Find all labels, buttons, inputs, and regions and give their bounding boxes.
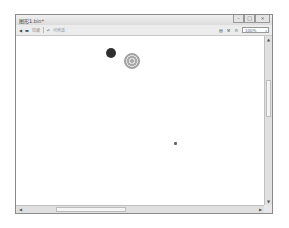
tool-icon[interactable]: ⚒ [227, 28, 231, 33]
window-title: 图形1.bin* [19, 17, 44, 24]
vertical-scroll-thumb[interactable] [266, 80, 271, 117]
small-dot-shape[interactable] [174, 142, 177, 145]
print-icon[interactable]: ▤ [219, 28, 223, 33]
patterned-circle-shape[interactable] [124, 53, 140, 69]
toolbar-divider [43, 27, 44, 33]
scroll-up-icon[interactable]: ▲ [267, 37, 270, 42]
scroll-down-icon[interactable]: ▼ [267, 199, 270, 204]
dark-blob-shape[interactable] [106, 48, 116, 58]
chevron-down-icon: ▾ [265, 28, 267, 34]
scrollbar-corner [264, 205, 272, 213]
scroll-left-icon[interactable]: ◀ [19, 207, 22, 212]
minimize-button[interactable]: – [233, 15, 244, 23]
app-window: 图形1.bin* – □ × ◀ ▬ 隐藏 ↶ 可修改 ▤ ⚒ ⚙ 100% ▾ [15, 14, 273, 214]
horizontal-scroll-thumb[interactable] [56, 207, 126, 212]
horizontal-scrollbar[interactable]: ◀ ▶ [16, 205, 264, 213]
close-button[interactable]: × [255, 15, 270, 23]
toolbar: ◀ ▬ 隐藏 ↶ 可修改 ▤ ⚒ ⚙ 100% ▾ [16, 25, 272, 36]
zoom-select[interactable]: 100% ▾ [242, 27, 269, 33]
vertical-scrollbar[interactable]: ▲ ▼ [264, 36, 272, 205]
hide-button[interactable]: 隐藏 [32, 27, 40, 33]
folder-icon[interactable]: ▬ [25, 28, 29, 33]
back-icon[interactable]: ◀ [19, 28, 22, 33]
editable-button[interactable]: 可修改 [53, 27, 65, 33]
drawing-canvas[interactable] [16, 36, 264, 205]
zoom-value: 100% [245, 28, 256, 33]
window-controls: – □ × [233, 15, 270, 24]
undo-icon[interactable]: ↶ [47, 28, 50, 33]
scroll-right-icon[interactable]: ▶ [259, 207, 262, 212]
settings-icon[interactable]: ⚙ [234, 28, 238, 33]
maximize-button[interactable]: □ [244, 15, 255, 23]
